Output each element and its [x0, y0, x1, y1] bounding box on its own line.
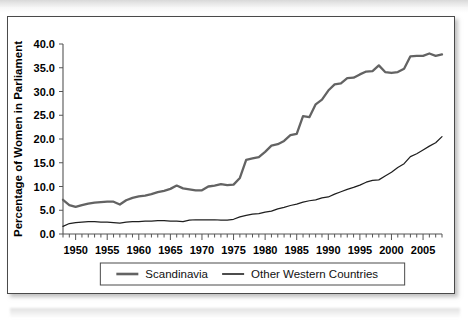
- x-tick-label: 1975: [221, 244, 245, 256]
- y-axis-title: Percentage of Women in Parliament: [12, 41, 24, 237]
- y-tick-label: 20.0: [34, 133, 55, 145]
- x-tick-label: 1960: [127, 244, 151, 256]
- x-tick-label: 2000: [379, 244, 403, 256]
- x-tick-label: 1955: [95, 244, 119, 256]
- chart-page: 0.05.010.015.020.025.030.035.040.0195019…: [0, 0, 468, 320]
- y-tick-label: 30.0: [34, 86, 55, 98]
- x-tick-label: 1995: [348, 244, 372, 256]
- page-top-band: [0, 0, 468, 7]
- legend-label-other-western-countries: Other Western Countries: [251, 268, 378, 280]
- x-tick-label: 2005: [411, 244, 435, 256]
- series-line-other-western-countries: [63, 137, 442, 227]
- series-line-scandinavia: [63, 54, 442, 207]
- y-tick-label: 25.0: [34, 109, 55, 121]
- x-tick-label: 1985: [284, 244, 308, 256]
- y-tick-label: 0.0: [40, 228, 55, 240]
- legend-label-scandinavia: Scandinavia: [145, 268, 208, 280]
- page-bottom-shadow: [10, 308, 460, 318]
- y-tick-label: 35.0: [34, 62, 55, 74]
- y-tick-label: 40.0: [34, 38, 55, 50]
- x-tick-label: 1990: [316, 244, 340, 256]
- y-tick-label: 5.0: [40, 204, 55, 216]
- x-tick-label: 1950: [63, 244, 87, 256]
- x-tick-label: 1980: [253, 244, 277, 256]
- y-tick-label: 10.0: [34, 181, 55, 193]
- page-top-band-fade: [0, 7, 468, 13]
- figure-frame: 0.05.010.015.020.025.030.035.040.0195019…: [7, 16, 455, 294]
- x-tick-label: 1965: [158, 244, 182, 256]
- y-tick-label: 15.0: [34, 157, 55, 169]
- x-tick-label: 1970: [190, 244, 214, 256]
- line-chart: 0.05.010.015.020.025.030.035.040.0195019…: [8, 17, 454, 293]
